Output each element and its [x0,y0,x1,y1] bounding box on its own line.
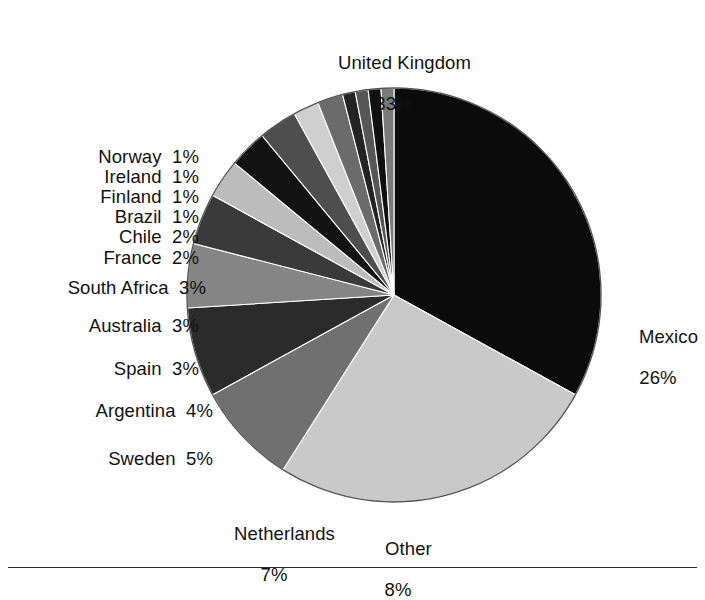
slice-label-other-pct: 8% [343,580,453,600]
slice-label-other-name: Other [385,538,432,559]
slice-label-sweden-text: Sweden 5% [108,448,213,469]
slice-label-mexico-pct: 26% [612,368,704,389]
slice-label-norway: Norway 1% [0,126,199,188]
slice-label-mexico: Mexico 26% [612,306,704,430]
slice-label-netherlands-pct: 7% [196,565,352,586]
slice-label-mexico-name: Mexico [639,326,698,347]
slice-label-argentina-text: Argentina 4% [95,400,213,421]
slice-label-netherlands: Netherlands 7% [196,503,352,600]
slice-label-united-kingdom: United Kingdom 33% [294,32,494,156]
slice-label-spain-text: Spain 3% [114,358,199,379]
slice-label-united-kingdom-pct: 33% [294,94,494,115]
slice-label-norway-text: Norway 1% [98,146,199,167]
bottom-rule [8,567,697,568]
slice-label-united-kingdom-name: United Kingdom [338,52,471,73]
slice-label-netherlands-name: Netherlands [234,523,335,544]
slice-label-other: Other 8% [343,518,453,600]
